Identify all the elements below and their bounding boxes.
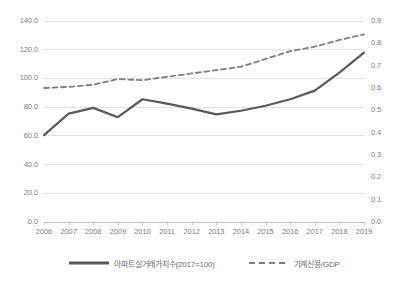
y-axis-left-tick: 20.0 — [4, 189, 38, 197]
legend-label-apartment-index: 아파트실거래가지수(2017=100) — [114, 258, 214, 269]
y-axis-left-tick: 60.0 — [4, 132, 38, 140]
x-axis-tick-mark — [69, 222, 70, 225]
y-axis-right-tick: 0.1 — [371, 196, 401, 204]
y-axis-left-tick: 120.0 — [4, 46, 38, 54]
x-axis-tick-mark — [364, 222, 365, 225]
chart-legend: 아파트실거래가지수(2017=100) 가계신용/GDP — [0, 252, 409, 274]
x-axis-tick-label: 2012 — [179, 228, 205, 236]
x-axis-tick-label: 2007 — [56, 228, 82, 236]
x-axis-tick-mark — [44, 222, 45, 225]
x-axis-tick-mark — [216, 222, 217, 225]
y-axis-right-tick: 0.0 — [371, 218, 401, 226]
y-axis-right-tick: 0.6 — [371, 84, 401, 92]
x-axis-tick-label: 2013 — [203, 228, 229, 236]
legend-label-household-credit-gdp: 가계신용/GDP — [294, 258, 340, 269]
legend-swatch-solid-icon — [69, 258, 109, 268]
series-lines — [44, 21, 364, 222]
y-axis-left-tick: 80.0 — [4, 103, 38, 111]
y-axis-right-tick: 0.4 — [371, 129, 401, 137]
y-axis-left-tick: 40.0 — [4, 161, 38, 169]
x-axis-tick-label: 2011 — [154, 228, 180, 236]
x-axis-tick-label: 2015 — [253, 228, 279, 236]
x-axis-tick-label: 2017 — [302, 228, 328, 236]
x-axis-tick-label: 2018 — [326, 228, 352, 236]
legend-item-household-credit-gdp[interactable]: 가계신용/GDP — [249, 258, 340, 269]
y-axis-left-tick: 100.0 — [4, 74, 38, 82]
x-axis-tick-mark — [241, 222, 242, 225]
chart-container: 0.020.040.060.080.0100.0120.0140.0 0.00.… — [0, 0, 409, 285]
y-axis-right-tick: 0.7 — [371, 62, 401, 70]
x-axis-tick-mark — [167, 222, 168, 225]
x-axis-tick-mark — [266, 222, 267, 225]
y-axis-right-tick: 0.3 — [371, 151, 401, 159]
y-axis-right-tick: 0.8 — [371, 39, 401, 47]
y-axis-right-tick: 0.2 — [371, 173, 401, 181]
x-axis-tick-mark — [192, 222, 193, 225]
y-axis-left-tick: 140.0 — [4, 17, 38, 25]
x-axis-tick-mark — [290, 222, 291, 225]
x-axis-tick-mark — [339, 222, 340, 225]
x-axis-tick-label: 2009 — [105, 228, 131, 236]
y-axis-right-tick: 0.9 — [371, 17, 401, 25]
x-axis-tick-label: 2019 — [351, 228, 377, 236]
legend-swatch-dashed-icon — [249, 258, 289, 268]
x-axis-tick-mark — [315, 222, 316, 225]
y-axis-right-tick: 0.5 — [371, 106, 401, 114]
x-axis-tick-mark — [93, 222, 94, 225]
legend-item-apartment-index[interactable]: 아파트실거래가지수(2017=100) — [69, 258, 214, 269]
x-axis-tick-label: 2008 — [80, 228, 106, 236]
x-axis-tick-mark — [142, 222, 143, 225]
x-axis-tick-label: 2014 — [228, 228, 254, 236]
x-axis-tick-mark — [118, 222, 119, 225]
x-axis-tick-label: 2006 — [31, 228, 57, 236]
y-axis-left-tick: 0.0 — [4, 218, 38, 226]
plot-area — [44, 21, 364, 222]
x-axis-tick-label: 2010 — [129, 228, 155, 236]
x-axis-tick-label: 2016 — [277, 228, 303, 236]
